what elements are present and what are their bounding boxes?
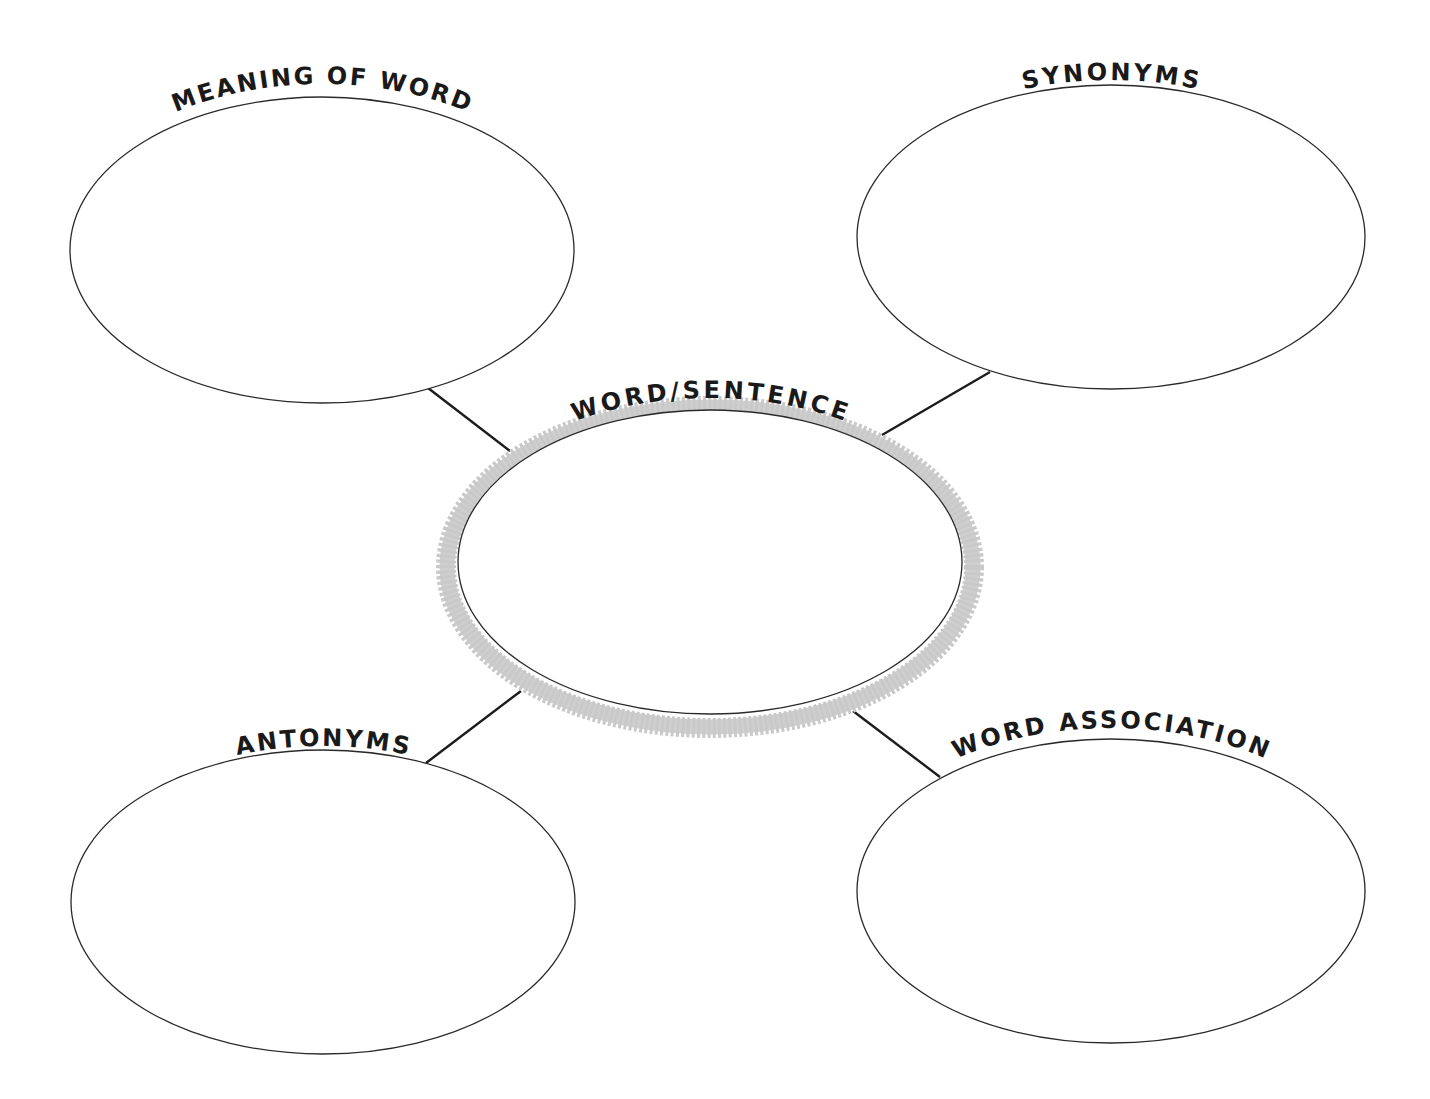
synonyms-ellipse[interactable] xyxy=(857,85,1365,389)
meaning-ellipse[interactable] xyxy=(70,97,574,403)
node-synonyms: SYNONYMS xyxy=(857,58,1365,389)
connector-synonyms xyxy=(882,372,990,435)
node-association: WORD ASSOCIATION xyxy=(857,706,1365,1043)
word-web-diagram: MEANING OF WORD SYNONYMS ANTONYMS WORD A… xyxy=(0,0,1430,1099)
node-antonyms: ANTONYMS xyxy=(71,724,575,1054)
center-ellipse[interactable] xyxy=(458,410,962,714)
connector-association xyxy=(853,711,940,777)
connector-antonyms xyxy=(426,691,521,763)
node-meaning: MEANING OF WORD xyxy=(70,62,574,403)
association-ellipse[interactable] xyxy=(857,739,1365,1043)
connector-meaning xyxy=(428,388,510,451)
antonyms-ellipse[interactable] xyxy=(71,750,575,1054)
